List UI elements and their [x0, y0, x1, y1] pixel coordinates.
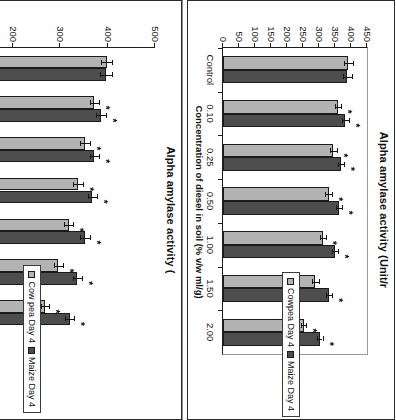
- left-chart-error-cap: [88, 194, 89, 199]
- left-chart-bar: [0, 231, 85, 244]
- right-chart-value-tick-label: 350: [330, 26, 341, 42]
- right-chart-value-tick: [366, 43, 367, 48]
- right-chart-category-label: 1.00: [205, 235, 216, 254]
- left-chart-significance-marker: *: [91, 241, 101, 245]
- right-chart-value-tick: [318, 43, 319, 48]
- left-chart-error-cap: [65, 316, 66, 321]
- left-chart-bar: [0, 109, 101, 122]
- left-chart-bar: [0, 96, 94, 109]
- right-chart-value-tick: [350, 43, 351, 48]
- left-chart-error-cap: [73, 276, 74, 281]
- left-chart-error-cap: [106, 113, 107, 118]
- right-chart-error-cap: [341, 104, 342, 109]
- left-chart-legend-swatch: [29, 271, 36, 278]
- left-chart-value-tick-label: 400: [102, 26, 113, 42]
- left-chart-error-cap: [99, 154, 100, 159]
- left-chart-error-cap: [90, 100, 91, 105]
- right-chart-bar: [223, 332, 320, 346]
- right-chart-bar: [223, 56, 348, 70]
- left-chart-error-cap: [73, 182, 74, 187]
- left-chart-error-cap: [73, 222, 74, 227]
- right-chart-value-tick-label: 200: [282, 26, 293, 42]
- right-chart-category-tick: [218, 179, 223, 180]
- right-chart-error-cap: [337, 148, 338, 153]
- left-chart-canvas: Alpha amylase activity ( 010020030040050…: [0, 0, 182, 420]
- scan-divider-vertical: [182, 0, 183, 420]
- left-chart-value-tick: [59, 43, 60, 48]
- right-chart-bar: [223, 275, 315, 289]
- right-chart-error-cap: [319, 279, 320, 284]
- right-chart-bar: [223, 231, 323, 245]
- right-chart-category-tick: [218, 223, 223, 224]
- right-chart-category-tick: [218, 267, 223, 268]
- right-chart-value-tick-label: 50: [234, 31, 245, 42]
- right-chart-bar: [223, 70, 347, 84]
- right-chart-legend-label: Maize Day 4: [286, 361, 296, 411]
- left-chart-error-cap: [54, 263, 55, 268]
- left-chart-error-cap: [90, 154, 91, 159]
- right-chart-value-tick: [302, 43, 303, 48]
- right-chart-error-cap: [344, 162, 345, 167]
- left-chart-bar: [0, 68, 106, 81]
- right-chart-value-tick-label: 450: [362, 26, 373, 42]
- right-chart-significance-marker: *: [343, 211, 353, 215]
- right-chart-error-cap: [342, 205, 343, 210]
- left-chart-legend-label: Maize Day 4: [27, 357, 37, 407]
- right-chart-significance-marker: *: [350, 123, 360, 127]
- right-chart-error-cap: [332, 249, 333, 254]
- right-chart-value-tick-label: 0: [218, 37, 229, 42]
- right-chart-category-axis-title: Concentration of diesel in soil (% v/w m…: [194, 47, 205, 357]
- right-chart-error-cap: [352, 74, 353, 79]
- right-chart-error-cap: [323, 336, 324, 341]
- left-chart-error-cap: [90, 141, 91, 146]
- right-chart-error-bar: [312, 282, 319, 283]
- left-chart-significance-marker: *: [107, 118, 117, 122]
- left-chart-error-bar: [88, 197, 97, 198]
- right-chart-error-bar: [342, 120, 349, 121]
- left-chart-significance-marker: *: [98, 200, 108, 204]
- right-chart-bar: [223, 201, 339, 215]
- right-chart-category-label: Control: [205, 55, 216, 86]
- left-chart-error-bar: [64, 225, 73, 226]
- right-chart-legend-item: Maize Day 4: [286, 351, 296, 411]
- right-chart-error-cap: [301, 323, 302, 328]
- right-chart-error-cap: [330, 148, 331, 153]
- left-chart-error-cap: [63, 263, 64, 268]
- left-chart-value-tick: [12, 43, 13, 48]
- right-chart-title: Alpha amylase activity (Unit/r: [378, 1, 390, 419]
- left-chart-error-bar: [90, 103, 99, 104]
- right-chart-category-label: 0.25: [205, 148, 216, 167]
- left-chart-bar: [0, 191, 92, 204]
- left-chart-bar: [0, 178, 78, 191]
- left-chart-error-cap: [99, 100, 100, 105]
- right-chart-error-cap: [332, 293, 333, 298]
- right-chart-significance-marker: *: [324, 342, 334, 346]
- right-chart-panel: Alpha amylase activity (Unit/r 050100150…: [186, 0, 396, 420]
- right-chart-value-tick-label: 150: [266, 26, 277, 42]
- left-chart-error-cap: [83, 182, 84, 187]
- right-chart-error-cap: [338, 162, 339, 167]
- left-chart-bar: [0, 137, 85, 150]
- left-chart-value-tick-label: 300: [55, 26, 66, 42]
- right-chart-canvas: Alpha amylase activity (Unit/r 050100150…: [187, 0, 395, 420]
- left-chart-error-cap: [101, 60, 102, 65]
- right-chart-value-tick: [270, 43, 271, 48]
- right-chart-value-tick-label: 250: [298, 26, 309, 42]
- left-chart-error-cap: [100, 72, 101, 77]
- right-chart-value-tick: [238, 43, 239, 48]
- left-chart-significance-marker: *: [75, 322, 85, 326]
- right-chart-error-cap: [306, 323, 307, 328]
- right-chart-bar: [223, 288, 329, 302]
- right-chart-category-tick: [218, 48, 223, 49]
- right-chart-error-bar: [344, 63, 353, 64]
- left-chart-value-tick-label: 200: [7, 26, 18, 42]
- left-chart-error-bar: [90, 156, 99, 157]
- left-chart-error-bar: [101, 62, 112, 63]
- left-chart-error-bar: [80, 238, 89, 239]
- left-chart-error-bar: [54, 266, 63, 267]
- left-chart-error-bar: [96, 115, 106, 116]
- right-chart-error-cap: [342, 118, 343, 123]
- right-chart-error-cap: [326, 293, 327, 298]
- right-chart-legend-item: Cowpea Day 4: [286, 278, 296, 347]
- right-chart-category-label: 1.50: [205, 279, 216, 298]
